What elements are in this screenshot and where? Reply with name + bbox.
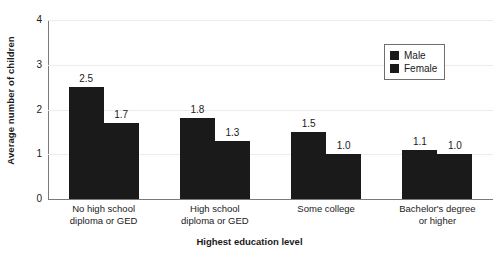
y-tick-label: 3 (20, 60, 42, 70)
bar-male[interactable] (69, 87, 104, 199)
bar-value-label: 1.7 (96, 110, 147, 120)
legend-label-male: Male (404, 51, 426, 61)
bar-group: 1.81.3 (180, 20, 250, 199)
x-category-label-line: No high school (48, 203, 159, 215)
bar-chart: Average number of children 2.51.71.81.31… (0, 0, 499, 258)
x-axis-title: Highest education level (0, 236, 499, 247)
legend-item-female: Female (390, 62, 437, 75)
bar-value-label: 1.8 (172, 105, 223, 115)
x-category-label: No high schooldiploma or GED (48, 203, 159, 226)
y-axis-title-text: Average number of children (5, 36, 16, 164)
x-category-label-line: or higher (382, 215, 493, 227)
x-category-label-line: diploma or GED (48, 215, 159, 227)
legend-swatch-female-icon (390, 64, 399, 73)
bar-group: 1.51.0 (291, 20, 361, 199)
bar-group: 2.51.7 (69, 20, 139, 199)
chart-legend: Male Female (384, 44, 445, 80)
legend-item-male: Male (390, 49, 437, 62)
bar-male[interactable] (402, 150, 437, 199)
bar-value-label: 1.3 (207, 128, 258, 138)
x-category-label-line: Bachelor's degree (382, 203, 493, 215)
x-category-label: Some college (271, 203, 382, 215)
x-category-label-line: diploma or GED (159, 215, 270, 227)
x-category-label: Bachelor's degreeor higher (382, 203, 493, 226)
bar-value-label: 1.0 (318, 141, 369, 151)
x-category-label-line: High school (159, 203, 270, 215)
legend-label-female: Female (404, 64, 437, 74)
y-tick-label: 1 (20, 149, 42, 159)
bar-female[interactable] (437, 154, 472, 199)
bar-female[interactable] (104, 123, 139, 199)
y-axis-title: Average number of children (0, 0, 20, 200)
legend-swatch-male-icon (390, 51, 399, 60)
x-axis-line (48, 199, 493, 200)
y-tick-label: 4 (20, 15, 42, 25)
x-category-label: High schooldiploma or GED (159, 203, 270, 226)
bar-value-label: 1.0 (429, 141, 480, 151)
y-tick-label: 0 (20, 194, 42, 204)
bar-value-label: 1.5 (283, 119, 334, 129)
bar-female[interactable] (215, 141, 250, 199)
bar-female[interactable] (326, 154, 361, 199)
bar-value-label: 2.5 (61, 74, 112, 84)
x-category-label-line: Some college (271, 203, 382, 215)
y-tick-label: 2 (20, 105, 42, 115)
